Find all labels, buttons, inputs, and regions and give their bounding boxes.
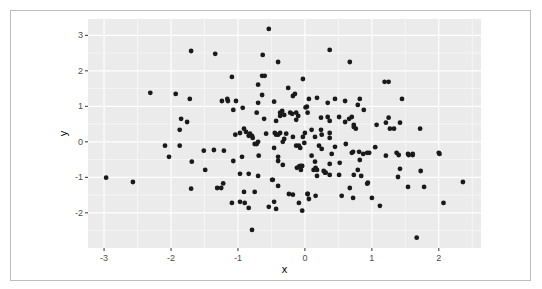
data-point <box>203 168 208 173</box>
data-point <box>254 110 259 115</box>
data-point <box>189 186 194 191</box>
data-point <box>386 115 391 120</box>
data-point <box>256 174 261 179</box>
data-point <box>396 175 401 180</box>
data-point <box>238 131 243 136</box>
data-point <box>276 60 281 65</box>
data-point <box>250 228 255 233</box>
data-point <box>276 159 281 164</box>
data-point <box>220 99 225 104</box>
data-point <box>246 206 251 211</box>
data-point <box>264 131 269 136</box>
data-point <box>343 120 348 125</box>
data-point <box>347 186 352 191</box>
data-point <box>351 173 356 178</box>
data-point <box>272 99 277 104</box>
data-point <box>367 150 372 155</box>
data-point <box>327 162 332 167</box>
data-point <box>201 148 206 153</box>
data-point <box>327 131 332 136</box>
data-point <box>355 168 360 173</box>
data-point <box>319 132 324 137</box>
data-point <box>370 196 375 201</box>
data-point <box>373 145 378 150</box>
data-point <box>221 181 226 186</box>
data-point <box>300 164 305 169</box>
data-point <box>305 192 310 197</box>
data-point <box>179 116 184 121</box>
x-axis-title: x <box>282 263 288 275</box>
data-point <box>414 235 419 240</box>
data-point <box>163 143 168 148</box>
data-point <box>441 201 446 206</box>
data-point <box>343 142 348 147</box>
data-point <box>400 97 405 102</box>
data-point <box>418 126 423 131</box>
data-point <box>351 196 356 201</box>
data-point <box>226 99 231 104</box>
data-point <box>315 174 320 179</box>
data-point <box>280 139 285 144</box>
data-point <box>437 152 442 157</box>
data-point <box>374 122 379 127</box>
data-point <box>301 135 306 140</box>
data-point <box>298 146 303 151</box>
data-point <box>333 97 338 102</box>
data-point <box>276 184 281 189</box>
data-point <box>333 144 338 149</box>
data-point <box>386 79 391 84</box>
data-point <box>313 159 318 164</box>
data-point <box>177 127 182 132</box>
data-point <box>212 148 217 153</box>
data-point <box>357 97 362 102</box>
data-point <box>291 192 296 197</box>
data-point <box>313 193 318 198</box>
data-point <box>266 204 271 209</box>
x-tick-label: 2 <box>436 253 441 263</box>
data-point <box>252 142 257 147</box>
y-axis: -2-10123 <box>75 30 88 218</box>
data-point <box>337 173 342 178</box>
data-point <box>361 108 366 113</box>
data-point <box>291 135 296 140</box>
data-point <box>461 180 466 185</box>
x-tick-label: 0 <box>302 253 307 263</box>
data-point <box>104 175 109 180</box>
data-point <box>233 132 238 137</box>
data-point <box>378 203 383 208</box>
data-point <box>351 122 356 127</box>
data-point <box>256 100 261 105</box>
data-point <box>337 160 342 165</box>
data-point <box>305 110 310 115</box>
data-point <box>219 186 224 191</box>
data-point <box>213 51 218 56</box>
data-point <box>287 192 292 197</box>
data-point <box>266 27 271 32</box>
data-point <box>230 201 235 206</box>
x-tick-label: -2 <box>167 253 175 263</box>
data-point <box>343 99 348 104</box>
data-point <box>274 207 279 212</box>
data-point <box>189 159 194 164</box>
data-point <box>252 190 257 195</box>
data-point <box>325 100 330 105</box>
data-point <box>173 92 178 97</box>
data-point <box>313 135 318 140</box>
data-point <box>307 97 312 102</box>
data-point <box>309 127 314 132</box>
data-point <box>327 136 332 141</box>
data-point <box>231 108 236 113</box>
data-point <box>231 159 236 164</box>
data-point <box>347 60 352 65</box>
x-tick-label: -3 <box>100 253 108 263</box>
data-point <box>329 152 334 157</box>
data-point <box>272 199 277 204</box>
data-point <box>274 119 279 124</box>
data-point <box>230 75 235 80</box>
data-point <box>297 201 302 206</box>
scatter-chart: -3-2-1012 -2-10123 x y <box>0 0 542 289</box>
data-point <box>240 154 245 159</box>
data-point <box>398 120 403 125</box>
data-point <box>276 132 281 137</box>
data-point <box>302 141 307 146</box>
